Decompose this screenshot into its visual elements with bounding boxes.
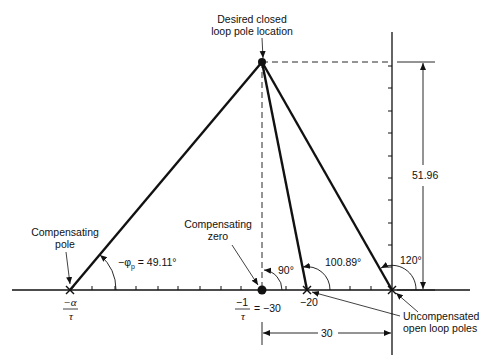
zero-equals-label: = −30 — [254, 302, 281, 314]
compensating-zero-marker — [258, 286, 267, 295]
alpha-numerator: −α — [63, 296, 76, 308]
desired-pole-leader — [262, 38, 263, 58]
uncomp-label-line1: Uncompensated — [403, 310, 480, 322]
comp-pole-label-line1: Compensating — [31, 226, 99, 238]
comp-zero-leader — [232, 245, 258, 285]
desired-pole-label-line2: loop pole location — [211, 25, 293, 37]
comp-zero-label-line2: zero — [208, 230, 229, 242]
width-dim-label: 30 — [321, 327, 333, 339]
uncomp-label-line2: open loop poles — [403, 322, 477, 334]
angle-pole20-label: 100.89° — [325, 256, 361, 268]
angle-zero-label: 90° — [278, 264, 294, 276]
comp-zero-label-line1: Compensating — [184, 218, 252, 230]
zero-numerator: −1 — [236, 296, 248, 308]
vector-pole-minus20 — [262, 62, 307, 290]
desired-pole-label-line1: Desired closed — [217, 13, 287, 25]
uncomp-leader-1 — [312, 292, 400, 316]
zero-denominator: τ — [241, 310, 246, 322]
pole20-tick-label: −20 — [300, 296, 318, 308]
root-locus-diagram: 51.96 30 Desired closed loop pole locati… — [0, 0, 485, 359]
comp-pole-label-line2: pole — [55, 238, 75, 250]
alpha-denominator: τ — [69, 310, 74, 322]
angle-arc-comp-pole — [100, 255, 116, 290]
angle-pole0-label: 120° — [400, 254, 422, 266]
desired-pole-marker — [258, 58, 266, 66]
height-dim-label: 51.96 — [412, 169, 438, 181]
comp-pole-leader — [66, 252, 70, 284]
phi-label: −φp = 49.11° — [118, 256, 177, 271]
